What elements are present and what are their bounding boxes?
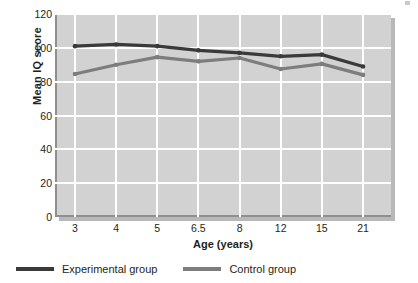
data-point [361, 64, 366, 69]
y-tick-label: 80 [18, 76, 52, 88]
legend-item[interactable]: Experimental group [16, 263, 157, 275]
y-tick-label: 20 [18, 177, 52, 189]
x-axis-tick-labels: 3456.58121521 [55, 222, 391, 238]
data-point [237, 56, 242, 61]
line-chart: Mean IQ score 020406080100120 3456.58121… [0, 0, 418, 283]
y-tick-label: 120 [18, 8, 52, 20]
data-point [114, 62, 119, 67]
x-tick-label: 4 [96, 222, 136, 234]
y-tick-label: 100 [18, 42, 52, 54]
data-point [155, 55, 160, 60]
legend-item[interactable]: Control group [183, 263, 296, 275]
data-point [114, 42, 119, 47]
x-tick-label: 21 [343, 222, 383, 234]
data-point [196, 59, 201, 64]
data-point [73, 44, 78, 49]
data-point [155, 44, 160, 49]
legend-label: Experimental group [62, 263, 157, 275]
series-layer [55, 14, 391, 217]
legend-swatch [183, 267, 221, 271]
data-point [237, 51, 242, 56]
y-tick-label: 40 [18, 143, 52, 155]
x-tick-label: 12 [261, 222, 301, 234]
series-line [75, 57, 363, 75]
data-point [320, 52, 325, 57]
y-tick-label: 60 [18, 110, 52, 122]
x-tick-label: 15 [302, 222, 342, 234]
x-tick-label: 6.5 [178, 222, 218, 234]
y-axis-tick-labels: 020406080100120 [14, 14, 52, 217]
data-point [361, 73, 366, 78]
data-point [320, 62, 325, 67]
data-point [196, 48, 201, 53]
y-tick-label: 0 [18, 211, 52, 223]
data-point [278, 67, 283, 72]
x-tick-label: 3 [55, 222, 95, 234]
x-axis-title: Age (years) [55, 238, 391, 250]
chart-legend: Experimental groupControl group [14, 260, 404, 278]
x-tick-label: 5 [137, 222, 177, 234]
corner-artifact [405, 1, 410, 5]
x-tick-label: 8 [220, 222, 260, 234]
legend-label: Control group [229, 263, 296, 275]
data-point [278, 54, 283, 59]
legend-swatch [16, 267, 54, 271]
data-point [73, 72, 78, 77]
